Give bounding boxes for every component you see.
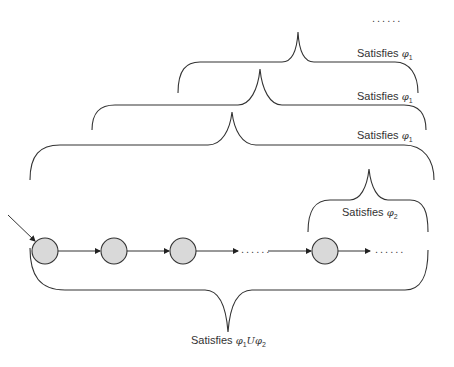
middle-ellipsis: ...... — [241, 243, 271, 255]
state-node-s0 — [32, 238, 58, 264]
top-ellipsis: ...... — [372, 12, 402, 24]
brace-until — [30, 248, 428, 332]
label-phi1-level-3: Satisfies φ1 — [357, 47, 413, 61]
state-node-s2 — [170, 238, 196, 264]
state-node-sk — [312, 238, 338, 264]
brace-phi2 — [308, 169, 428, 232]
end-ellipsis: ...... — [375, 243, 405, 255]
brace-phi1-level-1 — [30, 112, 434, 180]
label-phi1-level-1: Satisfies φ1 — [357, 129, 413, 143]
brace-phi1-level-3 — [178, 32, 418, 93]
label-phi1-level-2: Satisfies φ1 — [357, 90, 413, 104]
state-node-s1 — [101, 238, 127, 264]
label-until: Satisfies φ1Uφ2 — [191, 334, 266, 348]
label-phi2: Satisfies φ2 — [342, 206, 398, 220]
initial-state-arrow — [8, 215, 35, 241]
